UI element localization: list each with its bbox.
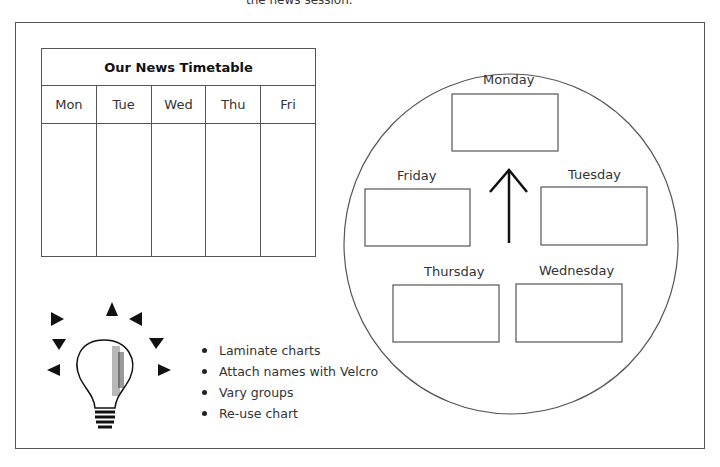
label-friday: Friday	[397, 168, 436, 183]
tip-item: Attach names with Velcro	[200, 361, 378, 382]
bullet-icon	[202, 411, 207, 416]
timetable-column-mon: Mon	[42, 86, 97, 256]
timetable-cell	[42, 124, 96, 256]
label-thursday: Thursday	[424, 264, 484, 279]
timetable-day-header: Tue	[97, 86, 151, 124]
tip-item: Re-use chart	[200, 403, 378, 424]
tips-list: Laminate charts Attach names with Velcro…	[200, 340, 378, 424]
rotation-circle	[340, 60, 680, 430]
timetable-column-thu: Thu	[206, 86, 261, 256]
timetable-cell	[206, 124, 260, 256]
wednesday-box	[516, 284, 622, 342]
friday-box	[365, 189, 470, 246]
tip-item: Laminate charts	[200, 340, 378, 361]
up-arrow-icon	[490, 170, 527, 243]
timetable-column-wed: Wed	[152, 86, 207, 256]
thursday-box	[393, 285, 499, 342]
label-tuesday: Tuesday	[568, 167, 621, 182]
label-wednesday: Wednesday	[539, 263, 614, 278]
header-partial-text: the news session.	[246, 0, 353, 7]
timetable-cell	[152, 124, 206, 256]
timetable-day-header: Thu	[206, 86, 260, 124]
bullet-icon	[202, 390, 207, 395]
tuesday-box	[541, 187, 647, 245]
timetable-day-header: Wed	[152, 86, 206, 124]
label-monday: Monday	[483, 72, 534, 87]
bullet-icon	[202, 369, 207, 374]
timetable-column-tue: Tue	[97, 86, 152, 256]
timetable-cell	[261, 124, 315, 256]
monday-box	[452, 94, 558, 151]
tip-item: Vary groups	[200, 382, 378, 403]
timetable-day-header: Mon	[42, 86, 96, 124]
timetable-column-fri: Fri	[261, 86, 315, 256]
timetable-day-header: Fri	[261, 86, 315, 124]
timetable-title: Our News Timetable	[42, 49, 315, 86]
timetable-cell	[97, 124, 151, 256]
bullet-icon	[202, 348, 207, 353]
news-timetable: Our News Timetable Mon Tue Wed Thu Fri	[41, 48, 316, 257]
lightbulb-icon	[40, 300, 180, 450]
